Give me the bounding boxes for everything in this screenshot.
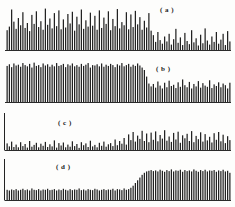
bar [126,190,127,200]
bar [72,63,73,102]
bar [216,140,217,150]
bar [112,146,113,150]
bar [63,64,64,102]
bar [121,144,122,150]
bar [70,189,71,200]
bar [157,82,158,103]
panel-label-a: ( a ) [160,7,174,14]
bar [164,37,165,51]
bar [9,27,10,50]
bar [7,143,8,150]
bar [97,64,98,102]
bar [117,145,118,150]
bar [61,190,62,200]
bar [74,189,75,200]
bar [205,170,206,200]
bar [112,65,113,102]
bar [112,19,113,50]
bar [29,31,30,50]
bar [63,189,64,200]
bar [110,143,111,150]
bar [81,10,82,51]
bar [173,85,174,102]
bar [119,28,120,50]
bar [189,82,190,102]
bar [76,144,77,150]
bar [106,147,107,150]
bar [22,63,23,102]
bar [211,88,212,102]
bar [128,189,129,200]
bar [106,190,107,200]
panel-label-d: ( d ) [56,164,71,171]
bar [99,10,100,50]
bar [70,66,71,102]
bar [67,14,68,50]
bar [7,190,8,200]
bar [101,28,102,50]
bar [88,63,89,102]
bar [223,135,224,150]
bar [207,171,208,200]
bar [135,142,136,150]
bar [36,190,37,200]
bar [191,131,192,150]
bar [74,66,75,102]
bar [13,63,14,102]
bar [67,190,68,200]
bar [108,189,109,200]
bar [16,145,17,150]
bar [20,142,21,150]
bar [49,144,50,150]
bar [40,21,41,50]
bar [171,169,172,200]
bar [187,41,188,50]
bar [227,171,228,200]
bar [155,42,156,50]
bar [36,143,37,150]
bar [153,84,154,102]
bar [133,186,134,200]
bar [52,28,53,50]
bar [220,171,221,200]
bar [20,25,21,50]
panel-a [0,4,235,52]
bar [106,65,107,102]
bar [22,189,23,200]
bar [148,142,149,150]
bar [83,145,84,150]
bar [144,173,145,200]
bar [184,138,185,150]
bar [85,190,86,200]
bar [94,16,95,50]
bar [52,146,53,150]
bar [103,67,104,102]
bar [56,148,57,150]
bar [85,65,86,102]
bar [133,27,134,50]
bar [198,139,199,150]
bar [155,88,156,102]
bar [92,146,93,150]
bar [220,87,221,102]
bar [142,175,143,200]
bar [193,42,194,50]
plot-area-b [0,60,235,104]
bar [182,135,183,150]
bar [126,12,127,50]
bar-series-c [0,112,235,152]
bar [47,147,48,150]
bar [216,172,217,200]
bar [97,147,98,150]
bar [139,66,140,102]
bar [137,63,138,102]
bar [56,26,57,50]
bar [74,31,75,50]
bar [97,189,98,200]
bar [52,65,53,102]
bar [126,65,127,102]
bar [101,146,102,150]
bar [112,189,113,200]
bar [178,171,179,200]
bar [128,29,129,50]
